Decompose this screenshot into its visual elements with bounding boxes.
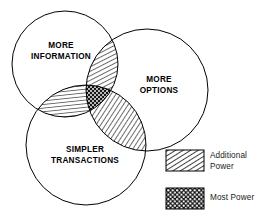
legend-label-additional-power-line2: Power	[210, 162, 234, 171]
label-simpler-transactions-line1: SIMPLER	[66, 145, 104, 154]
label-more-options-line1: MORE	[146, 75, 172, 84]
venn-diagram-canvas: MORE INFORMATION MORE OPTIONS SIMPLER TR…	[0, 0, 261, 222]
legend-swatch-additional-power	[166, 150, 204, 171]
legend-item-most-power: Most Power	[166, 188, 254, 209]
label-more-options-line2: OPTIONS	[140, 86, 179, 95]
legend-label-most-power: Most Power	[210, 193, 254, 202]
legend-item-additional-power: Additional Power	[166, 150, 247, 171]
legend: Additional Power Most Power	[166, 150, 254, 209]
legend-swatch-most-power	[166, 188, 204, 209]
label-more-information-line1: MORE	[48, 41, 74, 50]
label-more-information-line2: INFORMATION	[31, 52, 91, 61]
venn-diagram-figure: MORE INFORMATION MORE OPTIONS SIMPLER TR…	[0, 0, 261, 222]
legend-label-additional-power-line1: Additional	[210, 151, 247, 160]
label-simpler-transactions-line2: TRANSACTIONS	[51, 156, 119, 165]
